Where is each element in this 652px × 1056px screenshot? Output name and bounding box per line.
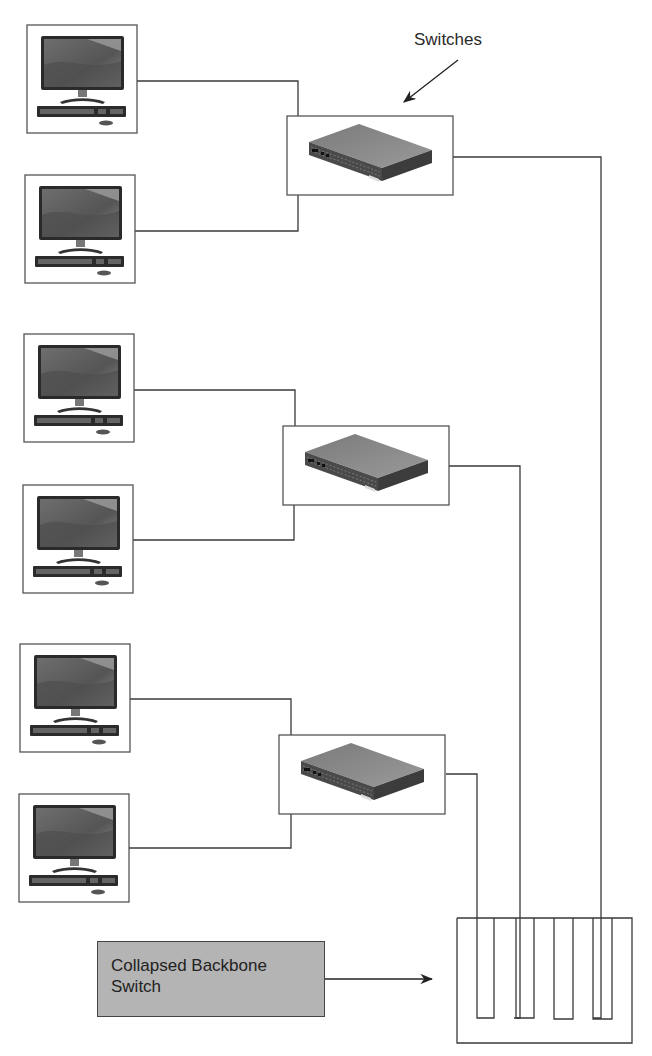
link-pc3-switch2 xyxy=(134,390,295,426)
link-switch3-backbone xyxy=(446,774,477,918)
switch-icon-2 xyxy=(283,426,449,505)
computer-icon-1 xyxy=(27,25,137,133)
link-pc6-switch3 xyxy=(129,814,291,848)
backbone-slot-2 xyxy=(516,918,534,1018)
link-switch1-backbone xyxy=(452,157,601,1018)
computer-icon-5 xyxy=(20,644,130,752)
computer-icon-2 xyxy=(25,175,135,283)
backbone-slot-4 xyxy=(593,918,612,1019)
switches-pointer-arrow xyxy=(404,60,458,102)
switch-icon-3 xyxy=(279,735,445,814)
link-pc4-switch2 xyxy=(132,505,294,540)
switches-label: Switches xyxy=(414,30,482,50)
connection-lines xyxy=(129,81,601,1018)
backbone-label-line-1: Collapsed Backbone xyxy=(111,955,324,976)
backbone-slot-3 xyxy=(554,918,573,1019)
backbone-slot-1 xyxy=(477,918,494,1018)
link-pc5-switch3 xyxy=(130,699,291,735)
link-pc1-switch1 xyxy=(137,81,298,116)
backbone-switch-icon xyxy=(457,918,632,1043)
link-switch2-backbone xyxy=(449,466,520,1018)
computer-icon-3 xyxy=(24,334,134,442)
link-pc2-switch1 xyxy=(135,194,298,231)
backbone-label-line-2: Switch xyxy=(111,976,324,997)
computer-icon-6 xyxy=(19,794,129,902)
network-diagram xyxy=(0,0,652,1056)
collapsed-backbone-label: Collapsed Backbone Switch xyxy=(97,941,325,1017)
computer-icon-4 xyxy=(23,485,133,593)
switch-icon-1 xyxy=(287,116,453,195)
